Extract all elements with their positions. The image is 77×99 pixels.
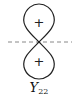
upper-lobe-sign: + — [34, 15, 45, 30]
label-symbol: Y — [30, 80, 39, 95]
lower-lobe-sign: + — [34, 54, 45, 69]
harmonic-label: Y22 — [24, 81, 54, 99]
label-subscript: 22 — [38, 87, 48, 96]
